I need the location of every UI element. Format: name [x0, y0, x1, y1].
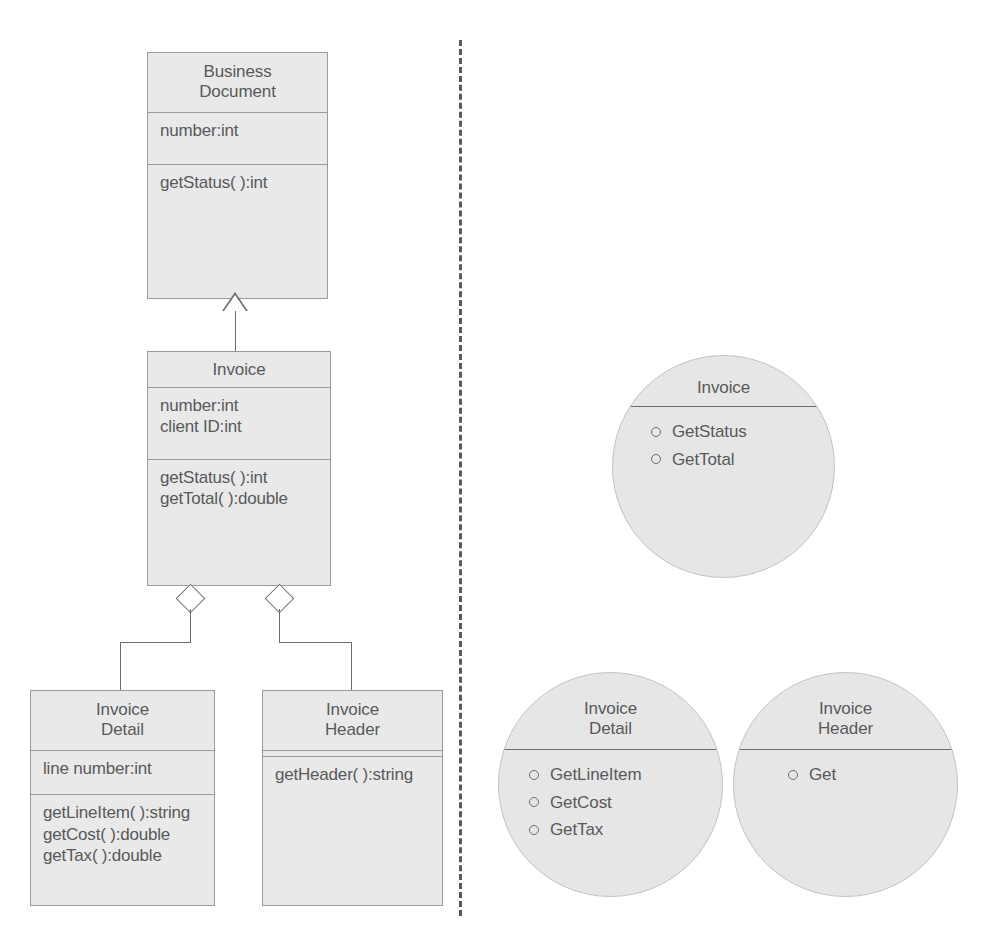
- class-operations-invoice-header: getHeader( ):string: [263, 756, 442, 905]
- class-title-business-document: Business Document: [148, 53, 327, 112]
- class-title-invoice: Invoice: [148, 352, 330, 387]
- class-title-invoice-detail: Invoice Detail: [31, 691, 214, 750]
- ring-bullet-icon: [651, 454, 661, 464]
- class-title-line: Header: [275, 720, 430, 740]
- circle-title-invoice-header: Invoice Header: [734, 699, 957, 739]
- aggregation-drop-detail: [120, 642, 121, 691]
- circle-title-line: Header: [734, 719, 957, 739]
- responsibility-item: GetStatus: [651, 418, 834, 446]
- class-box-business-document[interactable]: Business Document number:int getStatus( …: [147, 52, 328, 299]
- responsibility-circle-invoice[interactable]: Invoice GetStatus GetTotal: [612, 355, 835, 578]
- generalization-arrowhead-inner: [224, 295, 246, 311]
- responsibility-item: GetCost: [529, 789, 722, 817]
- circle-title-line: Invoice: [499, 699, 722, 719]
- circle-responsibilities-invoice-detail: GetLineItem GetCost GetTax: [499, 761, 722, 844]
- class-box-invoice[interactable]: Invoice number:int client ID:int getStat…: [147, 351, 331, 586]
- class-title-line: Detail: [43, 720, 202, 740]
- class-title-line: Invoice: [43, 700, 202, 720]
- responsibility-label: GetCost: [550, 789, 612, 817]
- responsibility-label: GetTax: [550, 816, 603, 844]
- class-attributes-invoice: number:int client ID:int: [148, 387, 330, 459]
- class-title-invoice-header: Invoice Header: [263, 691, 442, 750]
- class-operation: getStatus( ):int: [160, 172, 315, 193]
- responsibility-circle-invoice-header[interactable]: Invoice Header Get: [733, 672, 958, 897]
- responsibility-label: GetTotal: [672, 446, 735, 474]
- class-title-line: Document: [160, 82, 315, 102]
- class-box-invoice-detail[interactable]: Invoice Detail line number:int getLineIt…: [30, 690, 215, 906]
- responsibility-item: GetLineItem: [529, 761, 722, 789]
- responsibility-label: GetLineItem: [550, 761, 642, 789]
- responsibility-item: GetTax: [529, 816, 722, 844]
- class-attribute: line number:int: [43, 758, 202, 779]
- circle-responsibilities-invoice: GetStatus GetTotal: [613, 418, 834, 473]
- circle-divider-rule: [499, 749, 722, 750]
- circle-title-line: Detail: [499, 719, 722, 739]
- class-operations-invoice-detail: getLineItem( ):string getCost( ):double …: [31, 794, 214, 905]
- responsibility-item: Get: [788, 761, 957, 789]
- class-attributes-invoice-detail: line number:int: [31, 750, 214, 794]
- circle-title-invoice: Invoice: [613, 378, 834, 398]
- ring-bullet-icon: [529, 797, 539, 807]
- responsibility-item: GetTotal: [651, 446, 834, 474]
- class-operation: getTotal( ):double: [160, 488, 318, 509]
- class-title-line: Invoice: [275, 700, 430, 720]
- class-operation: getLineItem( ):string: [43, 802, 202, 823]
- class-operations-business-document: getStatus( ):int: [148, 164, 327, 298]
- class-attribute: number:int: [160, 395, 318, 416]
- ring-bullet-icon: [788, 770, 798, 780]
- circle-title-invoice-detail: Invoice Detail: [499, 699, 722, 739]
- class-box-invoice-header[interactable]: Invoice Header getHeader( ):string: [262, 690, 443, 906]
- circle-divider-rule: [734, 749, 957, 750]
- class-operation: getCost( ):double: [43, 824, 202, 845]
- class-attribute: client ID:int: [160, 416, 318, 437]
- class-operation: getTax( ):double: [43, 845, 202, 866]
- class-attributes-business-document: number:int: [148, 112, 327, 164]
- ring-bullet-icon: [651, 427, 661, 437]
- aggregation-elbow-detail: [120, 642, 191, 643]
- generalization-stem: [235, 311, 236, 351]
- circle-responsibilities-invoice-header: Get: [734, 761, 957, 789]
- class-title-line: Invoice: [160, 360, 318, 380]
- class-operation: getStatus( ):int: [160, 467, 318, 488]
- class-title-line: Business: [160, 62, 315, 82]
- aggregation-drop-header: [351, 642, 352, 691]
- class-operations-invoice: getStatus( ):int getTotal( ):double: [148, 459, 330, 585]
- responsibility-label: Get: [809, 761, 836, 789]
- diagram-canvas: Business Document number:int getStatus( …: [0, 0, 991, 950]
- ring-bullet-icon: [529, 770, 539, 780]
- class-attribute: number:int: [160, 120, 315, 141]
- ring-bullet-icon: [529, 825, 539, 835]
- responsibility-label: GetStatus: [672, 418, 747, 446]
- aggregation-stem-detail: [190, 609, 191, 642]
- circle-title-line: Invoice: [734, 699, 957, 719]
- circle-divider-rule: [613, 406, 834, 407]
- aggregation-stem-header: [279, 609, 280, 642]
- aggregation-elbow-header: [279, 642, 351, 643]
- circle-title-line: Invoice: [613, 378, 834, 398]
- responsibility-circle-invoice-detail[interactable]: Invoice Detail GetLineItem GetCost GetTa…: [498, 672, 723, 897]
- section-divider: [459, 40, 462, 916]
- class-operation: getHeader( ):string: [275, 764, 430, 785]
